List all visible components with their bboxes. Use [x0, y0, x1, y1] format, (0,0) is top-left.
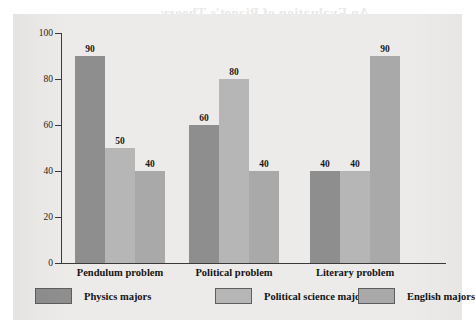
- y-tick-label-20: 20: [44, 212, 54, 222]
- y-tick-100: [55, 33, 61, 34]
- figure-panel: Percentage displaying formal thought 020…: [13, 14, 462, 320]
- legend-label: Physics majors: [84, 291, 151, 302]
- category-label: Pendulum problem: [75, 267, 165, 278]
- y-axis-line: [61, 33, 62, 263]
- bar: 50: [105, 148, 135, 263]
- bar-value-label: 40: [310, 159, 340, 169]
- y-tick-0: [55, 263, 61, 264]
- x-axis-line: [61, 263, 446, 264]
- bar: 40: [135, 171, 165, 263]
- legend-item: Physics majors: [35, 288, 151, 304]
- y-tick-label-60: 60: [44, 120, 54, 130]
- category-label: Literary problem: [310, 267, 400, 278]
- chart-legend: Physics majorsPolitical science majorsEn…: [13, 288, 462, 310]
- y-tick-40: [55, 171, 61, 172]
- legend-item: Political science majors: [215, 288, 369, 304]
- bar-value-label: 90: [75, 44, 105, 54]
- plot-area: Percentage displaying formal thought 020…: [61, 33, 446, 263]
- legend-label: Political science majors: [264, 291, 369, 302]
- y-tick-label-100: 100: [39, 28, 53, 38]
- bar-value-label: 50: [105, 136, 135, 146]
- y-tick-20: [55, 217, 61, 218]
- y-tick-80: [55, 79, 61, 80]
- bar-value-label: 40: [135, 159, 165, 169]
- y-tick-label-0: 0: [48, 258, 53, 268]
- bar: 90: [370, 56, 400, 263]
- legend-item: English majors: [358, 288, 475, 304]
- category-label: Political problem: [189, 267, 279, 278]
- bar: 40: [249, 171, 279, 263]
- bar-value-label: 90: [370, 44, 400, 54]
- bar-value-label: 80: [219, 67, 249, 77]
- bar: 80: [219, 79, 249, 263]
- legend-swatch: [215, 288, 252, 304]
- bar: 40: [340, 171, 370, 263]
- y-tick-label-80: 80: [44, 74, 54, 84]
- bar-value-label: 60: [189, 113, 219, 123]
- legend-label: English majors: [407, 291, 475, 302]
- y-tick-60: [55, 125, 61, 126]
- bar: 60: [189, 125, 219, 263]
- legend-swatch: [358, 288, 395, 304]
- bar-value-label: 40: [249, 159, 279, 169]
- y-tick-label-40: 40: [44, 166, 54, 176]
- bar-value-label: 40: [340, 159, 370, 169]
- bar: 90: [75, 56, 105, 263]
- legend-swatch: [35, 288, 72, 304]
- bar: 40: [310, 171, 340, 263]
